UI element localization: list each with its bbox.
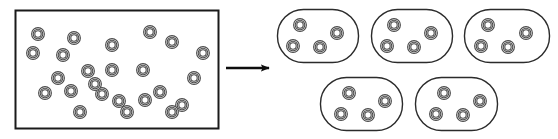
ring-inner-circle — [77, 109, 83, 115]
ring-inner-circle — [477, 98, 483, 104]
ring-particle — [474, 95, 487, 108]
ring-particle — [154, 86, 167, 99]
ring-inner-circle — [92, 81, 98, 87]
ring-particle — [379, 95, 392, 108]
ring-inner-circle — [428, 30, 434, 36]
ring-particle — [362, 109, 375, 122]
ring-particle — [121, 106, 134, 119]
ring-particle — [287, 40, 300, 53]
group-capsule-outline — [372, 10, 453, 63]
ring-particle — [82, 65, 95, 78]
ring-inner-circle — [68, 88, 74, 94]
ring-particle — [137, 64, 150, 77]
ring-particle — [381, 40, 394, 53]
ring-particle — [166, 36, 179, 49]
ring-inner-circle — [317, 44, 323, 50]
ring-inner-circle — [505, 44, 511, 50]
ring-inner-circle — [460, 112, 466, 118]
group-capsule-outline — [278, 10, 359, 63]
ring-particle — [343, 87, 356, 100]
ring-inner-circle — [35, 31, 41, 37]
ring-inner-circle — [85, 68, 91, 74]
ring-particle — [314, 41, 327, 54]
particle-group-capsule — [372, 10, 453, 63]
ring-particle — [438, 87, 451, 100]
ring-inner-circle — [140, 67, 146, 73]
ring-particle — [57, 49, 70, 62]
ring-inner-circle — [384, 43, 390, 49]
ring-inner-circle — [411, 44, 417, 50]
ring-inner-circle — [60, 52, 66, 58]
ring-inner-circle — [179, 102, 185, 108]
particle-group-capsule — [321, 78, 403, 131]
ring-inner-circle — [147, 29, 153, 35]
ring-inner-circle — [441, 90, 447, 96]
ring-inner-circle — [109, 67, 115, 73]
source-container-group — [16, 11, 219, 129]
ring-inner-circle — [71, 35, 77, 41]
ring-inner-circle — [42, 90, 48, 96]
ring-particle — [425, 27, 438, 40]
ring-particle — [89, 78, 102, 91]
ring-inner-circle — [109, 42, 115, 48]
ring-particle — [39, 87, 52, 100]
ring-inner-circle — [523, 30, 529, 36]
ring-particle — [520, 27, 533, 40]
ring-particle — [457, 109, 470, 122]
ring-inner-circle — [169, 39, 175, 45]
ring-particle — [188, 72, 201, 85]
ring-inner-circle — [55, 75, 61, 81]
ring-particle — [430, 108, 443, 121]
ring-inner-circle — [200, 50, 206, 56]
ring-particle — [335, 108, 348, 121]
ring-particle — [106, 39, 119, 52]
ring-particle — [331, 27, 344, 40]
ring-inner-circle — [99, 91, 105, 97]
ring-inner-circle — [478, 43, 484, 49]
ring-inner-circle — [169, 109, 175, 115]
ring-particle — [113, 95, 126, 108]
particle-partition-diagram — [0, 0, 558, 139]
particle-group-capsule — [278, 10, 359, 63]
ring-particle — [52, 72, 65, 85]
particle-group-capsule — [465, 10, 550, 63]
ring-inner-circle — [382, 98, 388, 104]
ring-particle — [294, 19, 307, 32]
ring-particle — [32, 28, 45, 41]
ring-particle — [27, 47, 40, 60]
ring-inner-circle — [338, 111, 344, 117]
ring-inner-circle — [142, 97, 148, 103]
ring-particle — [482, 19, 495, 32]
ring-inner-circle — [124, 109, 130, 115]
ring-particle — [65, 85, 78, 98]
ring-particle — [475, 40, 488, 53]
ring-inner-circle — [485, 22, 491, 28]
ring-inner-circle — [334, 30, 340, 36]
ring-inner-circle — [391, 22, 397, 28]
ring-particle — [106, 64, 119, 77]
particle-group-capsule — [416, 78, 498, 131]
ring-inner-circle — [290, 43, 296, 49]
ring-inner-circle — [30, 50, 36, 56]
diagram-canvas — [0, 0, 558, 139]
ring-particle — [408, 41, 421, 54]
group-capsule-outline — [465, 10, 550, 63]
ring-inner-circle — [157, 89, 163, 95]
ring-particle — [502, 41, 515, 54]
ring-inner-circle — [433, 111, 439, 117]
ring-inner-circle — [191, 75, 197, 81]
ring-particle — [68, 32, 81, 45]
ring-inner-circle — [365, 112, 371, 118]
ring-particle — [197, 47, 210, 60]
ring-particle — [388, 19, 401, 32]
ring-particle — [144, 26, 157, 39]
ring-inner-circle — [346, 90, 352, 96]
ring-inner-circle — [116, 98, 122, 104]
ring-particle — [166, 106, 179, 119]
ring-inner-circle — [297, 22, 303, 28]
ring-particle — [139, 94, 152, 107]
ring-particle — [74, 106, 87, 119]
